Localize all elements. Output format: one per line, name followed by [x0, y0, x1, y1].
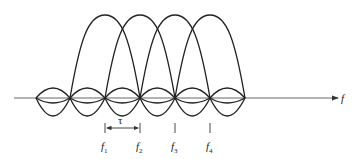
- spacing-label: τ: [118, 115, 122, 126]
- main-lobe-f2: [105, 15, 175, 98]
- subcarrier-curves: [36, 15, 245, 116]
- main-lobe-f1: [70, 15, 140, 98]
- ofdm-spectrum-diagram: τ f f1 f2 f3 f4: [0, 0, 353, 159]
- main-lobe-f3: [140, 15, 210, 98]
- axis-label-f: f: [341, 93, 344, 104]
- label-f4: f4: [206, 141, 213, 155]
- main-lobe-f4: [175, 15, 245, 98]
- label-f2: f2: [136, 141, 143, 155]
- spectrum-plot: [0, 0, 353, 159]
- label-f4-sub: 4: [209, 147, 213, 155]
- label-f1: f1: [101, 141, 108, 155]
- label-f3-sub: 3: [174, 147, 178, 155]
- label-f2-sub: 2: [139, 147, 143, 155]
- label-f3: f3: [171, 141, 178, 155]
- label-f1-sub: 1: [104, 147, 108, 155]
